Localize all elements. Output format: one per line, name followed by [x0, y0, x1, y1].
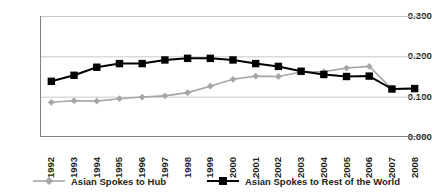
chart-legend: Asian Spokes to Hub Asian Spokes to Rest…	[0, 172, 432, 190]
data-point-square-marker	[161, 56, 168, 63]
legend-item-asian-spokes-to-rest-of-the-world[interactable]: Asian Spokes to Rest of the World	[206, 175, 400, 187]
data-point-square-marker	[70, 72, 77, 79]
data-point-diamond-marker	[275, 73, 282, 80]
data-point-square-marker	[184, 55, 191, 62]
legend-square-marker-icon	[206, 175, 240, 187]
data-point-square-marker	[366, 72, 373, 79]
plot-area	[40, 16, 426, 137]
data-point-diamond-marker	[230, 76, 237, 83]
data-point-square-marker	[138, 60, 145, 67]
data-point-diamond-marker	[207, 83, 214, 90]
data-point-diamond-marker	[71, 97, 78, 104]
legend-diamond-marker-icon	[32, 175, 66, 187]
data-point-diamond-marker	[184, 89, 191, 96]
plot-svg	[40, 16, 426, 137]
line-chart: 0.300 0.200 0.100 0.000 1992199319941995…	[0, 0, 432, 194]
data-point-diamond-marker	[139, 94, 146, 101]
data-point-square-marker	[207, 55, 214, 62]
data-point-square-marker	[343, 73, 350, 80]
series-layer	[48, 55, 419, 106]
data-point-square-marker	[297, 68, 304, 75]
data-point-diamond-marker	[116, 95, 123, 102]
data-point-diamond-marker	[48, 99, 55, 106]
data-point-square-marker	[48, 78, 55, 85]
legend-item-asian-spokes-to-hub[interactable]: Asian Spokes to Hub	[32, 175, 166, 187]
data-point-square-marker	[116, 60, 123, 67]
series-rest-of-world	[48, 55, 419, 93]
data-point-square-marker	[320, 71, 327, 78]
data-point-square-marker	[229, 56, 236, 63]
data-point-square-marker	[93, 64, 100, 71]
data-point-square-marker	[252, 60, 259, 67]
legend-label: Asian Spokes to Rest of the World	[245, 176, 400, 187]
data-point-diamond-marker	[161, 92, 168, 99]
data-point-diamond-marker	[93, 98, 100, 105]
data-point-diamond-marker	[343, 65, 350, 72]
series-hub	[48, 63, 418, 106]
data-point-square-marker	[411, 85, 418, 92]
legend-label: Asian Spokes to Hub	[71, 176, 166, 187]
data-point-diamond-marker	[252, 73, 259, 80]
data-point-square-marker	[275, 63, 282, 70]
data-point-square-marker	[388, 85, 395, 92]
